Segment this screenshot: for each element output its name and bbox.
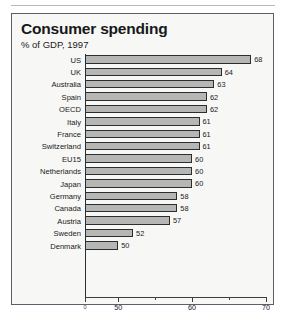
bar-value-label: 60 (195, 167, 203, 176)
category-axis-line (85, 54, 86, 297)
chart-header: Consumer spending % of GDP, 1997 (21, 20, 261, 51)
bar-row: Sweden52 (21, 227, 266, 239)
x-axis-tick (229, 297, 230, 300)
bar-row: Austria57 (21, 215, 266, 227)
bar-row: Spain62 (21, 91, 266, 103)
bar-row: Denmark50 (21, 240, 266, 252)
bar (85, 216, 170, 224)
bar-row: Japan60 (21, 178, 266, 190)
bar (85, 167, 192, 175)
plot-area: US68UK64Australia63Spain62OECD62Italy61F… (21, 54, 266, 297)
category-label: Netherlands (21, 167, 85, 176)
bar-track: 61 (85, 128, 266, 140)
bar-track: 63 (85, 79, 266, 91)
bar-value-label: 50 (121, 241, 129, 250)
bar-row: Canada58 (21, 203, 266, 215)
bar-track: 60 (85, 178, 266, 190)
bar-row: Netherlands60 (21, 166, 266, 178)
bar-track: 52 (85, 227, 266, 239)
bar-track: 61 (85, 141, 266, 153)
bar-track: 62 (85, 91, 266, 103)
category-label: Sweden (21, 229, 85, 238)
x-axis-tick (118, 297, 119, 302)
bar (85, 229, 133, 237)
bar-row: US68 (21, 54, 266, 66)
bar-track: 58 (85, 190, 266, 202)
bar-value-label: 61 (203, 130, 211, 139)
x-axis-tick (85, 297, 86, 302)
bar-row: Australia63 (21, 79, 266, 91)
bar (85, 80, 214, 88)
category-label: Italy (21, 118, 85, 127)
bar-track: 68 (85, 54, 266, 66)
bar-value-label: 62 (210, 105, 218, 114)
x-axis-tick (155, 297, 156, 300)
category-label: Spain (21, 93, 85, 102)
bar-value-label: 61 (203, 142, 211, 151)
bar-value-label: 63 (217, 80, 225, 89)
bar-track: 60 (85, 166, 266, 178)
bar (85, 68, 222, 76)
bar (85, 154, 192, 162)
category-label: France (21, 130, 85, 139)
chart-frame: Consumer spending % of GDP, 1997 US68UK6… (11, 13, 274, 305)
category-label: Switzerland (21, 142, 85, 151)
bar-track: 58 (85, 203, 266, 215)
bar-value-label: 61 (203, 117, 211, 126)
category-label: Austria (21, 217, 85, 226)
bar (85, 130, 200, 138)
bar (85, 192, 177, 200)
category-label: Japan (21, 180, 85, 189)
bar-track: 61 (85, 116, 266, 128)
bar (85, 179, 192, 187)
bar-track: 62 (85, 104, 266, 116)
bar-value-label: 57 (173, 216, 181, 225)
x-axis-tick (266, 297, 267, 302)
chart-screenshot: Consumer spending % of GDP, 1997 US68UK6… (0, 0, 286, 318)
bar-row: France61 (21, 128, 266, 140)
bar (85, 204, 177, 212)
bar (85, 117, 200, 125)
bar (85, 55, 251, 63)
category-label: Canada (21, 204, 85, 213)
bar-track: 60 (85, 153, 266, 165)
bar-value-label: 62 (210, 93, 218, 102)
category-label: US (21, 56, 85, 65)
category-label: UK (21, 68, 85, 77)
bar-row: Italy61 (21, 116, 266, 128)
top-divider-rule (11, 5, 275, 6)
bar-value-label: 60 (195, 155, 203, 164)
bar-row: EU1560 (21, 153, 266, 165)
bar-value-label: 64 (225, 68, 233, 77)
chart-subtitle: % of GDP, 1997 (21, 39, 261, 51)
bar-row: UK64 (21, 66, 266, 78)
chart-title: Consumer spending (21, 20, 261, 38)
category-label: Australia (21, 80, 85, 89)
bar-value-label: 58 (180, 204, 188, 213)
x-axis-tick-label: 50 (114, 303, 122, 312)
bar (85, 142, 200, 150)
bar-track: 50 (85, 240, 266, 252)
bar-row: Germany58 (21, 190, 266, 202)
bar (85, 92, 207, 100)
x-axis-tick-label: 60 (188, 303, 196, 312)
x-axis-tick-label: 0 (83, 303, 86, 312)
category-label: Germany (21, 192, 85, 201)
category-label: Denmark (21, 242, 85, 251)
bar (85, 241, 118, 249)
x-axis-tick-label: 70 (262, 303, 270, 312)
bar-value-label: 52 (136, 229, 144, 238)
bar-value-label: 60 (195, 179, 203, 188)
category-label: EU15 (21, 155, 85, 164)
x-axis-tick (192, 297, 193, 302)
bar-value-label: 58 (180, 192, 188, 201)
bar-row: OECD62 (21, 104, 266, 116)
bar-track: 64 (85, 66, 266, 78)
x-axis: 0506070 (85, 297, 266, 298)
bar-value-label: 68 (254, 55, 262, 64)
category-label: OECD (21, 105, 85, 114)
bar-track: 57 (85, 215, 266, 227)
bar (85, 105, 207, 113)
bar-row: Switzerland61 (21, 141, 266, 153)
